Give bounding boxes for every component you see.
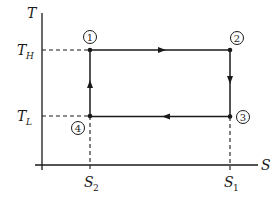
svg-text:2: 2 (234, 33, 240, 44)
arrow-down-icon (227, 76, 233, 84)
state-label-1: 1 (84, 31, 97, 44)
arrow-up-icon (87, 80, 93, 88)
svg-text:1: 1 (87, 32, 93, 43)
svg-text:2: 2 (93, 183, 99, 193)
state-label-3: 3 (237, 111, 250, 124)
state-label-4: 4 (72, 122, 85, 135)
th-label: T H (17, 42, 34, 61)
s2-label: S 2 (84, 174, 99, 193)
svg-text:3: 3 (240, 112, 246, 123)
arrow-left-icon (162, 114, 170, 120)
svg-text:4: 4 (75, 123, 81, 134)
state-point-1 (88, 48, 93, 53)
svg-text:L: L (25, 117, 32, 127)
ts-diagram: T S T H T L S 2 S 1 1 2 (0, 0, 280, 200)
svg-text:1: 1 (233, 183, 239, 193)
svg-text:H: H (25, 51, 34, 61)
state-label-2: 2 (231, 32, 244, 45)
t-axis-label: T (27, 5, 38, 21)
tl-label: T L (17, 108, 32, 127)
state-point-4 (88, 114, 93, 119)
state-point-2 (228, 48, 233, 53)
arrow-right-icon (158, 47, 166, 53)
s-axis-label: S (261, 157, 271, 173)
s1-label: S 1 (224, 174, 239, 193)
state-point-3 (228, 114, 233, 119)
